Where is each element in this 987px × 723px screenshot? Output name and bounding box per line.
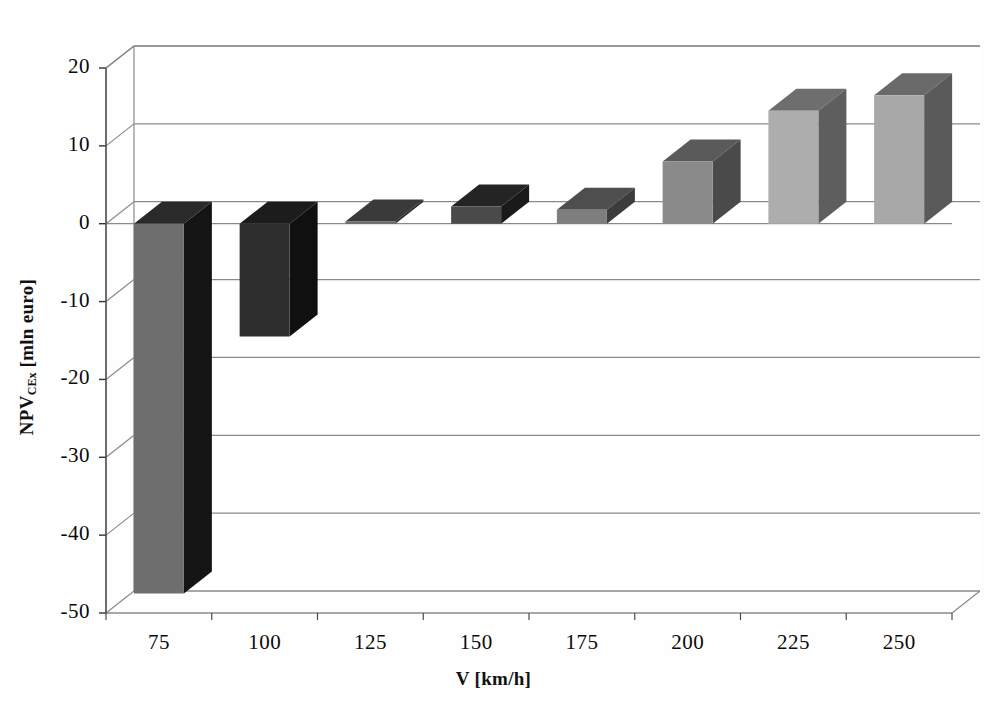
x-axis-title: V [km/h] — [0, 668, 987, 690]
y-axis-title-unit: [mln euro] — [16, 279, 37, 368]
x-axis-tick-label: 225 — [753, 630, 833, 655]
x-axis-tick-label: 150 — [436, 630, 516, 655]
y-axis-title: NPVCEx [mln euro] — [16, 187, 40, 527]
x-axis-tick-label: 175 — [542, 630, 622, 655]
x-axis-tick-label: 250 — [859, 630, 939, 655]
x-axis-tick-labels: 75100125150175200225250 — [0, 0, 987, 723]
x-axis-tick-label: 200 — [648, 630, 728, 655]
x-axis-tick-label: 75 — [119, 630, 199, 655]
y-axis-title-main: NPV — [16, 395, 37, 435]
x-axis-tick-label: 125 — [330, 630, 410, 655]
y-axis-title-subscript: CEx — [25, 373, 39, 396]
y-axis-title-spacer — [16, 368, 37, 373]
x-axis-tick-label: 100 — [225, 630, 305, 655]
chart-container: 20100-10-20-30-40-50 7510012515017520022… — [0, 0, 987, 723]
